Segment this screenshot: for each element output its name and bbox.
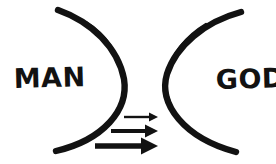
label-god: GOD — [215, 62, 276, 95]
diagram-canvas: MAN GOD — [0, 0, 276, 164]
label-man: MAN — [13, 61, 86, 94]
diagram-svg: MAN GOD — [0, 0, 276, 164]
